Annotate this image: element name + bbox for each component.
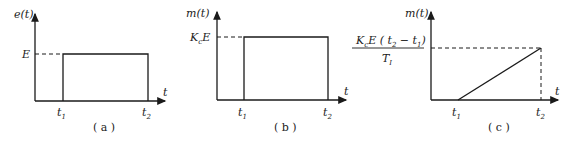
x-axis-label: t — [163, 86, 168, 99]
pulse-signal — [244, 37, 328, 100]
t1-label: t1 — [452, 106, 461, 121]
level-label: E — [21, 48, 30, 61]
ramp-signal — [458, 48, 541, 100]
t2-label: t2 — [536, 106, 545, 121]
panel-b: m(t) t KcE t1 t2 ( b ) — [186, 7, 349, 134]
pulse-signal — [63, 54, 148, 101]
figure-canvas: e(t) t E t1 t2 ( a ) m(t) t KcE t1 t2 ( … — [0, 0, 575, 149]
level-denominator: TI — [382, 52, 392, 67]
level-label: KcE — [189, 31, 210, 46]
t2-label: t2 — [323, 106, 332, 121]
caption-c: ( c ) — [488, 121, 510, 134]
x-axis-label: t — [344, 85, 349, 98]
y-axis-label: m(t) — [186, 7, 209, 20]
level-numerator: KcE ( t2 − t1) — [355, 34, 426, 49]
x-axis-label: t — [555, 85, 560, 98]
t1-label: t1 — [238, 106, 247, 121]
t1-label: t1 — [57, 106, 66, 121]
caption-b: ( b ) — [274, 121, 297, 134]
panel-a: e(t) t E t1 t2 ( a ) — [14, 8, 168, 134]
caption-a: ( a ) — [93, 121, 115, 134]
y-axis-label: m(t) — [405, 7, 428, 20]
panel-c: m(t) t KcE ( t2 − t1) TI t1 t2 ( c ) — [352, 7, 560, 134]
t2-label: t2 — [142, 106, 151, 121]
y-axis-label: e(t) — [14, 8, 34, 21]
